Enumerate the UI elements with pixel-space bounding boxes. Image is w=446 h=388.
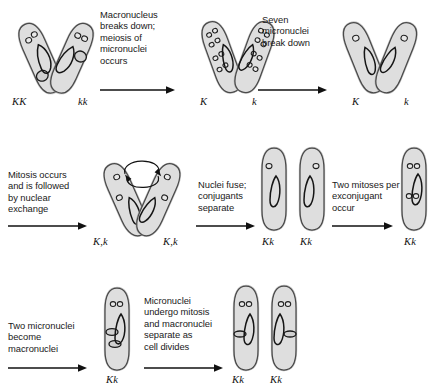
paramecium-pair-one-micronucleus bbox=[330, 6, 430, 94]
genotype-label-step4-left: K,k bbox=[93, 236, 108, 247]
genotype-label-step1-left: KK bbox=[12, 96, 26, 107]
genotype-label-step3-left: K bbox=[352, 96, 359, 107]
genotype-label-step6: Kk bbox=[404, 236, 416, 247]
caption-nuclei-fuse-separate: Nuclei fuse; conjugants separate bbox=[198, 179, 258, 213]
genotype-label-step7: Kk bbox=[106, 374, 118, 385]
genotype-label-step2-right: k bbox=[252, 96, 257, 107]
caption-two-micronuclei-become-macronuclei: Two micronuclei become macronuclei bbox=[8, 320, 98, 354]
genotype-label-step2-left: K bbox=[200, 96, 207, 107]
right-daughter-cell bbox=[272, 286, 296, 370]
genotype-label-step5-left: Kk bbox=[262, 236, 274, 247]
cell-group-step-4 bbox=[88, 146, 196, 238]
cell-group-step-8 bbox=[226, 282, 306, 374]
arrow-to-daughter-cells bbox=[144, 362, 224, 374]
paramecium-pair-initial bbox=[8, 6, 104, 94]
cell-group-step-7 bbox=[96, 284, 138, 374]
caption-macronucleus-breaks-down: Macronucleus breaks down; meiosis of mic… bbox=[100, 9, 180, 66]
cell-group-step-5 bbox=[256, 144, 332, 234]
arrow-to-nuclear-exchange bbox=[8, 220, 88, 232]
genotype-label-step8-right: Kk bbox=[270, 374, 282, 385]
caption-mitosis-nuclear-exchange: Mitosis occurs and is followed by nuclea… bbox=[8, 169, 94, 215]
left-daughter-cell bbox=[234, 286, 258, 370]
caption-seven-micronuclei-break-down: Seven micronuclei break down bbox=[262, 14, 328, 48]
paramecium-four-micronuclei bbox=[394, 144, 434, 234]
genotype-label-step1-right: kk bbox=[78, 96, 88, 107]
arrow-to-four-micronuclei bbox=[332, 220, 394, 232]
genotype-label-step8-left: Kk bbox=[232, 374, 244, 385]
right-cell bbox=[300, 148, 324, 230]
paramecium-two-macronuclei bbox=[96, 284, 138, 374]
paramecium-conjugation-diagram: KK kk Macronucleus breaks down; meiosis … bbox=[0, 0, 446, 388]
genotype-label-step4-right: K,k bbox=[163, 236, 178, 247]
cell-group-step-6 bbox=[394, 144, 434, 234]
cell-group-step-1 bbox=[8, 6, 104, 94]
right-cell bbox=[371, 19, 421, 97]
arrow-step2-to-step3 bbox=[258, 84, 328, 96]
genotype-label-step5-right: Kk bbox=[300, 236, 312, 247]
left-cell bbox=[262, 148, 286, 230]
paramecium-pair-nuclear-exchange bbox=[88, 146, 196, 238]
genotype-label-step3-right: k bbox=[404, 96, 409, 107]
arrow-step1-to-step2 bbox=[100, 84, 176, 96]
paramecium-separated-pair bbox=[256, 144, 332, 234]
paramecium-daughter-pair bbox=[226, 282, 306, 374]
arrow-to-separated-exconjugants bbox=[196, 220, 256, 232]
cell-group-step-3 bbox=[330, 6, 430, 94]
arrow-to-two-macronuclei bbox=[8, 362, 88, 374]
